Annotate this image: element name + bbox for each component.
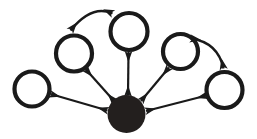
diagram-canvas [0, 0, 257, 139]
node-link-diagram [0, 0, 257, 139]
spoke-hub-far-right [146, 96, 207, 112]
node-upper-left[interactable] [56, 36, 92, 72]
arc-upper-left-top-center [71, 11, 113, 31]
node-top-center[interactable] [111, 13, 148, 50]
spoke-hub-upper-right [141, 68, 169, 102]
node-far-left[interactable] [15, 72, 50, 107]
spoke-hub-far-left [51, 94, 108, 111]
spoke-hub-top-center [128, 52, 129, 96]
hub-node[interactable] [108, 95, 146, 133]
node-upper-right[interactable] [163, 34, 198, 69]
spoke-hub-upper-left [86, 69, 115, 102]
node-far-right[interactable] [207, 72, 243, 108]
